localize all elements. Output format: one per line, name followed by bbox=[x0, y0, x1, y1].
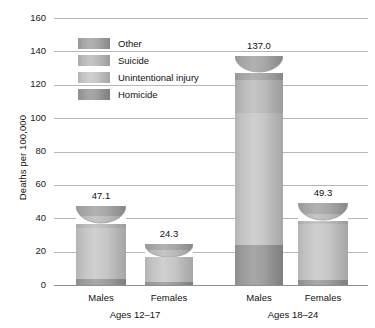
legend-swatch-homicide-icon bbox=[78, 89, 110, 100]
bar-segment-homicide bbox=[298, 280, 348, 285]
y-tick-label-80: 80 bbox=[2, 146, 46, 156]
bar-segment-unintentional-injury bbox=[235, 113, 283, 245]
bar-females-18-24[interactable] bbox=[298, 203, 348, 285]
legend-label-homicide: Homicide bbox=[118, 87, 158, 102]
group-label-ages-18-24: Ages 18–24 bbox=[213, 309, 373, 320]
legend-label-suicide: Suicide bbox=[118, 53, 149, 68]
bar-cap-ellipse bbox=[145, 244, 193, 257]
bar-segment-unintentional-injury bbox=[145, 256, 193, 282]
y-tick-label-40: 40 bbox=[2, 213, 46, 223]
bar-value-males-18-24: 137.0 bbox=[224, 40, 294, 51]
bar-value-females-12-17: 24.3 bbox=[134, 228, 204, 239]
y-tick-label-160: 160 bbox=[2, 13, 46, 23]
legend-label-other: Other bbox=[118, 36, 142, 51]
x-tick-label-females-18-24: Females bbox=[283, 292, 363, 303]
bar-females-12-17[interactable] bbox=[145, 244, 193, 285]
gridline-0-baseline bbox=[54, 285, 368, 286]
gridline-160 bbox=[54, 18, 368, 19]
legend-swatch-unintentional-injury-icon bbox=[78, 72, 110, 83]
gridline-140 bbox=[54, 51, 368, 52]
x-tick-label-females-12-17: Females bbox=[129, 292, 209, 303]
y-tick-label-20: 20 bbox=[2, 246, 46, 256]
bar-males-18-24[interactable] bbox=[235, 56, 283, 285]
bar-segment-homicide bbox=[235, 245, 283, 285]
group-label-ages-12-17: Ages 12–17 bbox=[55, 309, 215, 320]
bar-cap-ellipse bbox=[298, 203, 348, 221]
bar-cap-ellipse bbox=[76, 206, 126, 224]
bar-segment-homicide bbox=[145, 282, 193, 285]
bar-chart: Deaths per 100,000 160 140 120 100 80 60… bbox=[0, 0, 375, 328]
y-tick-label-100: 100 bbox=[2, 113, 46, 123]
y-tick-label-140: 140 bbox=[2, 46, 46, 56]
legend-swatch-suicide-icon bbox=[78, 55, 110, 66]
gridline-100 bbox=[54, 118, 368, 119]
legend-label-unintentional-injury: Unintentional injury bbox=[118, 70, 199, 85]
bar-males-12-17[interactable] bbox=[76, 206, 126, 285]
bar-cap-ellipse bbox=[235, 56, 283, 73]
y-tick-label-60: 60 bbox=[2, 179, 46, 189]
bar-segment-unintentional-injury bbox=[76, 228, 126, 279]
bar-value-females-18-24: 49.3 bbox=[288, 187, 358, 198]
bar-segment-suicide bbox=[235, 80, 283, 113]
y-tick-label-120: 120 bbox=[2, 79, 46, 89]
gridline-60 bbox=[54, 185, 368, 186]
y-tick-label-0: 0 bbox=[2, 280, 46, 290]
bar-value-males-12-17: 47.1 bbox=[66, 190, 136, 201]
gridline-120 bbox=[54, 85, 368, 86]
legend-swatch-other-icon bbox=[78, 38, 110, 49]
bar-segment-unintentional-injury bbox=[298, 224, 348, 280]
bar-segment-homicide bbox=[76, 279, 126, 285]
gridline-80 bbox=[54, 152, 368, 153]
y-axis-title: Deaths per 100,000 bbox=[17, 88, 28, 228]
